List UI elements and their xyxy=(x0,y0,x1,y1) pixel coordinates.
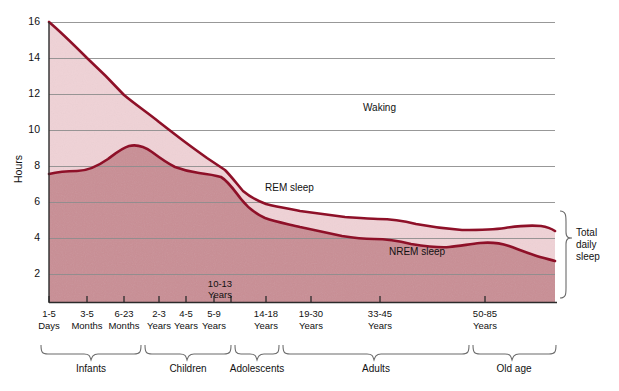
x-tick-50-85-years: 50-85 Years xyxy=(455,308,515,332)
y-axis-title: Hours xyxy=(12,155,24,183)
age-group-old-age: Old age xyxy=(444,363,584,374)
x-tick-33-45-years: 33-45 Years xyxy=(350,308,410,332)
y-tick-6: 6 xyxy=(14,196,40,207)
nrem-sleep-label: NREM sleep xyxy=(389,246,445,257)
x-tick-unit: Years xyxy=(184,320,244,332)
age-group-adults: Adults xyxy=(306,363,446,374)
waking-label: Waking xyxy=(363,102,396,113)
total-daily-sleep-line1: Total xyxy=(576,227,616,239)
total-daily-sleep-bracket xyxy=(560,211,572,298)
x-tick-range: 5-9 xyxy=(184,308,244,320)
x-tick-19-30-years: 19-30 Years xyxy=(281,308,341,332)
sleep-chart: 16 14 12 10 8 6 4 2 Hours Waking REM sle… xyxy=(0,0,619,391)
x-tick-unit: Years xyxy=(455,320,515,332)
total-daily-sleep-label: Total daily sleep xyxy=(576,227,616,263)
total-daily-sleep-line2: daily xyxy=(576,239,616,251)
x-tick-5-9-years: 5-9 Years xyxy=(184,308,244,332)
age-group-brackets xyxy=(41,345,556,360)
x-tick-unit: Years xyxy=(350,320,410,332)
x-tick-unit: Years xyxy=(281,320,341,332)
y-tick-12: 12 xyxy=(14,88,40,99)
x-tick-range: 50-85 xyxy=(455,308,515,320)
y-tick-4: 4 xyxy=(14,232,40,243)
y-tick-14: 14 xyxy=(14,52,40,63)
rem-sleep-label: REM sleep xyxy=(265,182,314,193)
x-tick-inline-10-13: 10-13 Years xyxy=(190,278,250,300)
y-tick-2: 2 xyxy=(14,268,40,279)
x-tick-inline-unit: Years xyxy=(208,289,232,300)
x-tick-inline-range: 10-13 xyxy=(208,278,232,289)
x-tick-range: 33-45 xyxy=(350,308,410,320)
x-tick-range: 19-30 xyxy=(281,308,341,320)
total-daily-sleep-line3: sleep xyxy=(576,251,616,263)
y-tick-10: 10 xyxy=(14,124,40,135)
chart-canvas xyxy=(0,0,619,391)
y-tick-16: 16 xyxy=(14,16,40,27)
